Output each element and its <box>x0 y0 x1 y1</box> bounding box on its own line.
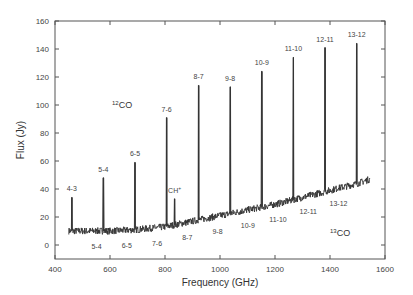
plot-frame <box>55 21 385 259</box>
spectrum-chart: 4006008001000120014001600020406080100120… <box>0 0 413 295</box>
x-tick-label: 1400 <box>321 265 339 274</box>
co13-peak-label: 12-11 <box>300 208 317 215</box>
x-axis-title: Frequency (GHz) <box>182 277 259 288</box>
x-tick-label: 1600 <box>376 265 394 274</box>
y-tick-label: 140 <box>36 45 50 54</box>
x-tick-label: 800 <box>158 265 172 274</box>
y-tick-label: 120 <box>36 73 50 82</box>
co12-peak-label: 8-7 <box>193 73 203 80</box>
co13-peak-label: 7-6 <box>152 240 162 247</box>
co12-peak-label: 6-5 <box>130 150 140 157</box>
y-tick-label: 80 <box>40 129 49 138</box>
co13-peak-label: 10-9 <box>241 222 255 229</box>
ch-plus-label: CH+ <box>168 185 181 194</box>
spectrum-line <box>69 43 370 234</box>
y-axis-title: Flux (Jy) <box>15 121 26 159</box>
axes: 4006008001000120014001600020406080100120… <box>15 17 394 288</box>
co13-label: 13CO <box>330 228 350 238</box>
co12-peak-label: 12-11 <box>316 36 333 43</box>
co13-peak-label: 8-7 <box>182 234 192 241</box>
x-tick-label: 600 <box>103 265 117 274</box>
y-tick-label: 60 <box>40 157 49 166</box>
x-tick-label: 400 <box>48 265 62 274</box>
y-tick-label: 0 <box>45 241 50 250</box>
co13-peak-label: 9-8 <box>212 228 222 235</box>
co12-label: 12CO <box>112 100 132 110</box>
co13-peak-label: 13-12 <box>330 200 348 207</box>
co12-peak-label: 10-9 <box>255 59 269 66</box>
co13-peak-label: 6-5 <box>122 242 132 249</box>
co12-peak-label: 7-6 <box>162 106 172 113</box>
x-tick-label: 1000 <box>211 265 229 274</box>
co12-peak-label: 13-12 <box>348 31 366 38</box>
y-tick-label: 40 <box>40 185 49 194</box>
y-tick-label: 100 <box>36 101 50 110</box>
co13-peak-label: 5-4 <box>91 243 101 250</box>
co12-peak-label: 9-8 <box>225 75 235 82</box>
co12-peak-label: 4-3 <box>67 185 77 192</box>
y-tick-label: 20 <box>40 213 49 222</box>
plot-area <box>69 43 370 234</box>
co13-peak-label: 11-10 <box>269 216 286 223</box>
x-tick-label: 1200 <box>266 265 284 274</box>
co12-peak-label: 5-4 <box>98 166 108 173</box>
co12-peak-label: 11-10 <box>285 45 302 52</box>
y-tick-label: 160 <box>36 17 50 26</box>
